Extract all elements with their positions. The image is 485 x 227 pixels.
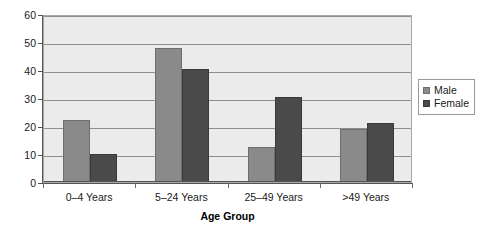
- y-axis-tick: [38, 71, 42, 72]
- legend-label-male: Male: [434, 85, 457, 96]
- gridline: [44, 100, 411, 101]
- bar-male-0: [63, 120, 90, 182]
- bar-male-3: [340, 129, 367, 182]
- bar-female-0: [90, 154, 117, 182]
- gridline: [44, 16, 411, 17]
- y-axis-tick: [38, 155, 42, 156]
- legend-item-female: Female: [423, 97, 469, 110]
- y-axis-tick-label: 30: [0, 94, 36, 105]
- y-axis-tick: [38, 43, 42, 44]
- gridline: [44, 72, 411, 73]
- bar-female-2: [275, 97, 302, 182]
- y-axis-tick: [38, 127, 42, 128]
- y-axis-tick-label: 40: [0, 66, 36, 77]
- y-axis-tick-label: 0: [0, 178, 36, 189]
- y-axis-tick-label: 20: [0, 122, 36, 133]
- legend-swatch-female-icon: [423, 100, 430, 107]
- x-axis-tick-label: 0–4 Years: [43, 192, 135, 203]
- y-axis-tick-label: 60: [0, 10, 36, 21]
- y-axis-line: [42, 15, 43, 184]
- x-axis-title: Age Group: [43, 211, 412, 222]
- bar-female-3: [367, 123, 394, 182]
- chart-legend: Male Female: [418, 79, 475, 115]
- x-axis-tick: [228, 183, 229, 188]
- bar-male-1: [155, 48, 182, 182]
- legend-swatch-male-icon: [423, 87, 430, 94]
- x-axis-tick: [135, 183, 136, 188]
- bar-male-2: [248, 147, 275, 182]
- legend-label-female: Female: [434, 98, 469, 109]
- y-axis-tick-label: 10: [0, 150, 36, 161]
- x-axis-tick-label: 5–24 Years: [135, 192, 227, 203]
- bar-chart: 0102030405060 0–4 Years5–24 Years25–49 Y…: [0, 0, 485, 227]
- x-axis-tick: [320, 183, 321, 188]
- x-axis-tick-label: 25–49 Years: [228, 192, 320, 203]
- legend-item-male: Male: [423, 84, 469, 97]
- y-axis-tick: [38, 183, 42, 184]
- bar-female-1: [182, 69, 209, 182]
- y-axis-tick-label: 50: [0, 38, 36, 49]
- plot-area: [43, 15, 412, 183]
- gridline: [44, 44, 411, 45]
- zero-baseline: [44, 181, 411, 182]
- x-axis-tick: [43, 183, 44, 188]
- y-axis-tick: [38, 99, 42, 100]
- x-axis-tick: [412, 183, 413, 188]
- x-axis-tick-label: >49 Years: [320, 192, 412, 203]
- y-axis-tick: [38, 15, 42, 16]
